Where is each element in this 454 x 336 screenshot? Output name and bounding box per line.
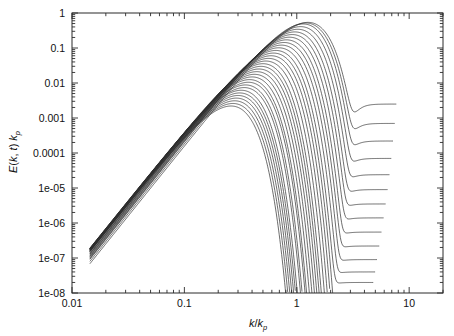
x-tick-label: 0.1 bbox=[177, 297, 192, 309]
x-tick-label: 0.01 bbox=[62, 297, 83, 309]
y-tick-label: 1 bbox=[59, 7, 65, 19]
figure-background bbox=[0, 0, 454, 336]
y-tick-label: 1e-08 bbox=[38, 287, 65, 299]
y-tick-label: 0.1 bbox=[50, 42, 65, 54]
y-axis-title-sub: p bbox=[13, 131, 22, 136]
y-axis-title-paren2: ) bbox=[7, 141, 19, 148]
chart-canvas: 0.010.1110 10.10.010.0010.00011e-051e-06… bbox=[0, 0, 454, 336]
spectrum-figure: 0.010.1110 10.10.010.0010.00011e-051e-06… bbox=[0, 0, 454, 336]
y-tick-label: 0.001 bbox=[39, 112, 65, 124]
x-tick-label: 1 bbox=[294, 297, 300, 309]
y-tick-label: 0.0001 bbox=[33, 147, 65, 159]
y-tick-label: 0.01 bbox=[45, 77, 66, 89]
x-tick-label: 10 bbox=[403, 297, 415, 309]
x-axis-title-sub: p bbox=[262, 323, 267, 332]
y-tick-label: 1e-07 bbox=[38, 252, 65, 264]
y-tick-label: 1e-06 bbox=[38, 217, 65, 229]
y-tick-label: 1e-05 bbox=[38, 182, 65, 194]
